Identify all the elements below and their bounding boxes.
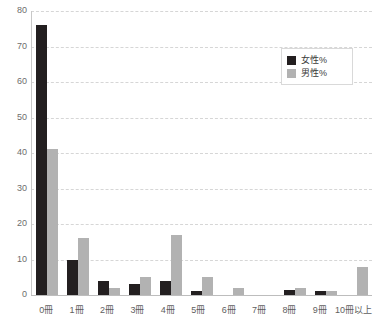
- x-tick-label: 10冊以上: [335, 300, 372, 322]
- y-tick-label: 20: [1, 219, 27, 228]
- x-tick-label: 3冊: [122, 300, 152, 322]
- bar: [233, 288, 244, 295]
- x-tick-label: 6冊: [213, 300, 243, 322]
- legend-label-male: 男性%: [301, 68, 327, 78]
- bar: [357, 267, 368, 295]
- bar-group: [155, 11, 186, 295]
- bar-group: [186, 11, 217, 295]
- x-tick-label: 5冊: [183, 300, 213, 322]
- bar: [171, 235, 182, 295]
- y-tick-label: 30: [1, 184, 27, 193]
- y-tick-label: 0: [1, 290, 27, 299]
- black-square-icon: [287, 56, 296, 65]
- bar: [98, 281, 109, 295]
- bar: [160, 281, 171, 295]
- bar-group: [93, 11, 124, 295]
- bar: [67, 260, 78, 296]
- bar: [202, 277, 213, 295]
- bar-chart: 01020304050607080 0冊1冊2冊3冊4冊5冊6冊7冊8冊9冊10…: [0, 0, 380, 326]
- bar-group: [62, 11, 93, 295]
- x-axis-line: [31, 295, 372, 296]
- legend-item-female: 女性%: [287, 54, 346, 66]
- bar: [140, 277, 151, 295]
- x-axis-tick-labels: 0冊1冊2冊3冊4冊5冊6冊7冊8冊9冊10冊以上: [31, 300, 372, 322]
- bar: [47, 149, 58, 295]
- bar: [295, 288, 306, 295]
- y-tick-label: 10: [1, 255, 27, 264]
- chart-legend: 女性% 男性%: [281, 48, 353, 85]
- x-tick-label: 0冊: [31, 300, 61, 322]
- x-tick-label: 7冊: [244, 300, 274, 322]
- y-tick-label: 80: [1, 6, 27, 15]
- x-tick-label: 4冊: [153, 300, 183, 322]
- y-tick-label: 40: [1, 148, 27, 157]
- bar-group: [124, 11, 155, 295]
- bar: [78, 238, 89, 295]
- x-tick-label: 9冊: [305, 300, 335, 322]
- bar: [36, 25, 47, 295]
- x-tick-label: 2冊: [92, 300, 122, 322]
- bar: [109, 288, 120, 295]
- x-tick-label: 8冊: [274, 300, 304, 322]
- y-tick-label: 70: [1, 42, 27, 51]
- gray-square-icon: [287, 69, 296, 78]
- y-axis-tick-labels: 01020304050607080: [0, 0, 27, 326]
- y-tick-label: 50: [1, 113, 27, 122]
- legend-label-female: 女性%: [301, 55, 327, 65]
- bar-group: [31, 11, 62, 295]
- x-tick-label: 1冊: [61, 300, 91, 322]
- bar: [129, 284, 140, 295]
- y-tick-label: 60: [1, 77, 27, 86]
- legend-item-male: 男性%: [287, 67, 346, 79]
- bar-group: [217, 11, 248, 295]
- bar-group: [248, 11, 279, 295]
- y-axis-line: [31, 11, 32, 296]
